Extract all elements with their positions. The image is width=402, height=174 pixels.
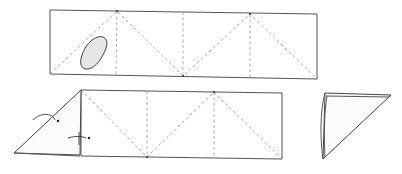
step-2-folding-strip (14, 90, 282, 159)
stain-blob (81, 37, 107, 70)
strip-outline (81, 90, 282, 159)
step-1-flat-strip (50, 10, 317, 79)
corner-dot (249, 13, 251, 15)
corner-dot (182, 75, 184, 77)
arrow-head-icon (88, 137, 91, 140)
step-3-folded-triangle (321, 93, 391, 159)
vertical-crease (116, 11, 117, 75)
corner-dot (116, 10, 118, 12)
zigzag-crease (81, 90, 282, 159)
triangle-outline (323, 93, 391, 159)
corner-dot (146, 156, 148, 158)
folding-diagram (0, 0, 402, 174)
arrow-head-icon (57, 120, 60, 123)
folded-flap (14, 90, 81, 155)
corner-dot (213, 91, 215, 93)
